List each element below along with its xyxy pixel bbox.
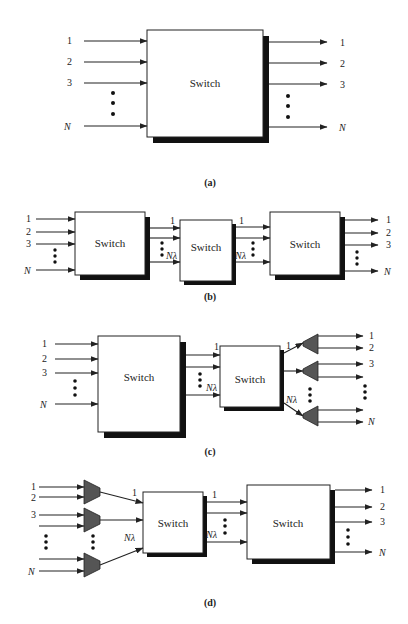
output-label: 3 bbox=[380, 516, 385, 527]
output-label: 1 bbox=[369, 330, 374, 341]
link-label: Nλ bbox=[234, 250, 247, 261]
link-label: Nλ bbox=[205, 382, 218, 393]
output-label: 3 bbox=[340, 79, 345, 90]
output-lines bbox=[269, 42, 327, 127]
ellipsis-dots-icon bbox=[91, 534, 95, 550]
demux-icon bbox=[303, 361, 318, 381]
link-label: 1 bbox=[214, 341, 219, 352]
switch-label: Switch bbox=[290, 238, 321, 250]
output-label: 2 bbox=[340, 58, 345, 69]
switch-label: Switch bbox=[235, 373, 266, 385]
output-label: 2 bbox=[386, 227, 391, 238]
input-lines bbox=[84, 41, 147, 126]
ellipsis-dots-icon bbox=[44, 534, 48, 550]
link-label: 1 bbox=[212, 489, 217, 500]
ellipsis-dots-icon bbox=[160, 241, 163, 256]
input-label: 2 bbox=[26, 226, 31, 237]
mux-output-line bbox=[100, 548, 143, 565]
input-label: N bbox=[23, 265, 32, 276]
ellipsis-dots-icon bbox=[346, 528, 350, 546]
output-label: 3 bbox=[369, 358, 374, 369]
ellipsis-dots-icon bbox=[111, 91, 115, 116]
ellipsis-dots-icon bbox=[73, 379, 77, 397]
input-label: 3 bbox=[31, 509, 36, 520]
output-label: 1 bbox=[340, 37, 345, 48]
output-lines bbox=[318, 336, 363, 422]
input-label: 1 bbox=[26, 213, 31, 224]
input-label: 2 bbox=[42, 353, 47, 364]
panel-a: Switch 1 2 3 N 1 2 3 N (a) bbox=[63, 30, 347, 189]
link-label: 1 bbox=[239, 215, 244, 226]
switch-architecture-figure: Switch 1 2 3 N 1 2 3 N (a) bbox=[0, 0, 408, 624]
output-label: 2 bbox=[369, 342, 374, 353]
input-label: 1 bbox=[42, 338, 47, 349]
output-label: N bbox=[338, 122, 347, 133]
output-label: N bbox=[367, 416, 376, 427]
mux-icon bbox=[84, 553, 100, 577]
output-label: 3 bbox=[386, 239, 391, 250]
panel-b: Switch Switch Switch 1 2 3 N 1 Nλ bbox=[23, 212, 392, 303]
ellipsis-dots-icon bbox=[251, 241, 254, 256]
ellipsis-dots-icon bbox=[286, 94, 290, 119]
input-lines bbox=[39, 487, 84, 571]
input-label: 2 bbox=[31, 492, 36, 503]
input-label: 3 bbox=[42, 367, 47, 378]
mux-label: Nλ bbox=[123, 532, 136, 543]
ellipsis-dots-icon bbox=[53, 248, 56, 263]
ellipsis-dots-icon bbox=[355, 250, 358, 265]
switch-label: Switch bbox=[158, 517, 189, 529]
panel-d: Switch Switch 1 2 3 N 1 Nλ bbox=[27, 480, 387, 609]
demux-icon bbox=[303, 334, 318, 354]
mux-icon bbox=[84, 508, 100, 532]
output-label: 1 bbox=[386, 214, 391, 225]
ellipsis-dots-icon bbox=[198, 372, 202, 388]
link-label: Nλ bbox=[165, 250, 178, 261]
mux-icon bbox=[84, 480, 100, 504]
output-label: N bbox=[378, 547, 387, 558]
input-label: N bbox=[27, 566, 36, 577]
input-label: 2 bbox=[67, 56, 72, 67]
output-label: N bbox=[383, 266, 392, 277]
link-label: 1 bbox=[170, 215, 175, 226]
switch-label: Switch bbox=[190, 77, 221, 89]
ellipsis-dots-icon bbox=[223, 518, 227, 535]
input-label: 1 bbox=[67, 35, 72, 46]
panel-caption: (d) bbox=[204, 597, 216, 609]
input-label: 1 bbox=[31, 481, 36, 492]
panel-caption: (c) bbox=[204, 446, 215, 458]
link-label: Nλ bbox=[205, 529, 218, 540]
input-label: N bbox=[39, 399, 48, 410]
ellipsis-dots-icon bbox=[308, 387, 312, 403]
panel-caption: (b) bbox=[204, 291, 216, 303]
demux-label: 1 bbox=[286, 340, 291, 351]
switch-label: Switch bbox=[95, 237, 126, 249]
output-lines bbox=[335, 490, 372, 552]
panel-caption: (a) bbox=[204, 177, 216, 189]
input-label: 3 bbox=[26, 238, 31, 249]
input-label: N bbox=[63, 121, 72, 132]
mux-label: 1 bbox=[132, 487, 137, 498]
switch-label: Switch bbox=[273, 517, 304, 529]
panel-c: Switch Switch 1 2 3 N 1 Nλ bbox=[39, 330, 376, 458]
output-label: 2 bbox=[380, 501, 385, 512]
switch-label: Switch bbox=[191, 241, 222, 253]
output-lines bbox=[345, 220, 378, 271]
switch-box bbox=[98, 336, 180, 432]
switch-label: Switch bbox=[124, 371, 155, 383]
demux-icon bbox=[303, 406, 318, 426]
output-label: 1 bbox=[380, 484, 385, 495]
ellipsis-dots-icon bbox=[363, 384, 367, 400]
demux-label: Nλ bbox=[285, 394, 298, 405]
input-label: 3 bbox=[67, 77, 72, 88]
